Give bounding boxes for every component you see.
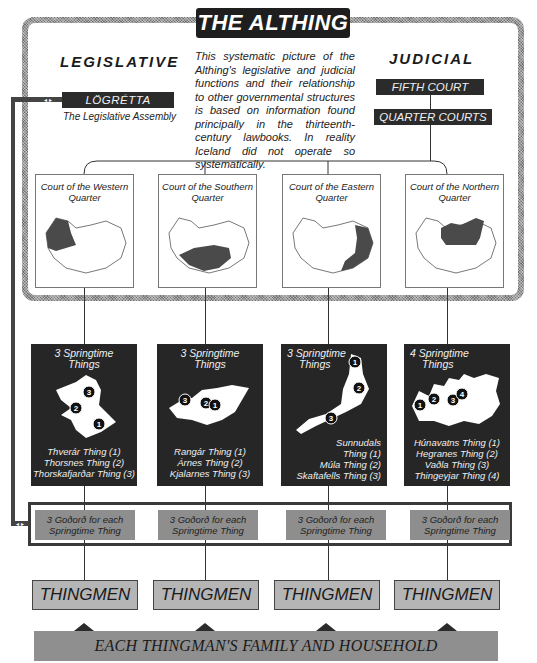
logretta-label: LÖGRÉTTA — [85, 94, 150, 106]
arrow-up-icon — [195, 623, 215, 631]
connector-west-3 — [84, 540, 85, 580]
godord-box-north: 3 Goðorð for each Springtime Thing — [410, 510, 510, 540]
thing-name: Thverár Thing (1) — [31, 446, 137, 457]
svg-text:3: 3 — [451, 396, 456, 405]
connector-south-3 — [205, 540, 206, 580]
thing-name: Thingeyjar Thing (4) — [404, 470, 510, 481]
thing-name: Vaðla Thing (3) — [404, 459, 510, 470]
court-title: Court of the Southern Quarter — [159, 181, 256, 203]
judicial-heading: JUDICIAL — [389, 50, 474, 67]
thing-name: Skaftafells Thing (3) — [297, 470, 381, 481]
arrow-up-icon — [316, 623, 336, 631]
thingmen-box-west: THINGMEN — [32, 580, 138, 610]
svg-text:3: 3 — [329, 414, 334, 423]
godord-label: 3 Goðorð for each — [35, 514, 135, 525]
springtime-card-south: 3 Springtime Things 3 2 1 Rangár Thing (… — [157, 344, 263, 486]
svg-text:3: 3 — [87, 388, 92, 397]
arrow-up-icon — [437, 623, 457, 631]
svg-text:3: 3 — [183, 396, 188, 405]
logretta-caption: The Legislative Assembly — [62, 111, 177, 122]
thingmen-box-south: THINGMEN — [153, 580, 259, 610]
springtime-title: Things — [157, 359, 263, 370]
thing-name: Thorsnes Thing (2) — [31, 457, 137, 468]
godord-label: Springtime Thing — [286, 525, 386, 536]
fifth-court-label: FIFTH COURT — [392, 81, 468, 93]
court-title: Court of the Northern Quarter — [406, 181, 503, 203]
springtime-card-east: 3 Springtime Things 1 2 3 Sunnudals Thin… — [281, 344, 387, 486]
court-card-western: Court of the Western Quarter — [35, 174, 134, 288]
page-title: THE ALTHING — [196, 8, 350, 38]
quarter-courts-label: QUARTER COURTS — [379, 111, 487, 123]
arrow-up-icon — [74, 623, 94, 631]
iceland-map-south-icon — [159, 203, 256, 278]
springtime-card-north: 4 Springtime Things 1 2 3 4 Húnavatns Th… — [404, 344, 510, 486]
thingmen-box-north: THINGMEN — [394, 580, 500, 610]
springtime-title: Things — [31, 359, 137, 370]
svg-text:1: 1 — [353, 358, 358, 367]
connector-arrows-icon: ◂ ▸ — [44, 96, 52, 103]
court-title: Court of the Western Quarter — [36, 181, 133, 203]
godord-box-east: 3 Goðorð for each Springtime Thing — [286, 510, 386, 540]
connector-east — [328, 288, 329, 344]
connector-east-3 — [328, 540, 329, 580]
thing-name: Thing (1) — [297, 448, 381, 459]
quarter-courts-box: QUARTER COURTS — [374, 109, 492, 125]
thing-name: Sunnudals — [297, 437, 381, 448]
godord-label: Springtime Thing — [35, 525, 135, 536]
iceland-map-west-icon — [36, 203, 133, 278]
court-card-southern: Court of the Southern Quarter — [158, 174, 257, 288]
connector-west — [84, 288, 85, 344]
springtime-card-west: 3 Springtime Things 3 2 1 Thverár Thing … — [31, 344, 137, 486]
north-quarter-map-icon: 1 2 3 4 — [404, 366, 510, 434]
godord-label: 3 Goðorð for each — [158, 514, 258, 525]
fifth-court-box: FIFTH COURT — [376, 79, 484, 95]
thing-name: Húnavatns Thing (1) — [404, 437, 510, 448]
thing-name: Kjalarnes Thing (3) — [157, 468, 263, 479]
svg-text:1: 1 — [97, 420, 102, 429]
family-household-bar: EACH THINGMAN'S FAMILY AND HOUSEHOLD — [34, 631, 498, 661]
connector-north-3 — [447, 540, 448, 580]
fifth-to-quarter-line — [430, 95, 431, 109]
svg-text:2: 2 — [204, 399, 209, 408]
godord-label: Springtime Thing — [158, 525, 258, 536]
connector-south — [205, 288, 206, 344]
godord-box-west: 3 Goðorð for each Springtime Thing — [35, 510, 135, 540]
thing-name: Múla Thing (2) — [297, 459, 381, 470]
logretta-box: LÖGRÉTTA — [62, 92, 174, 108]
godord-label: Springtime Thing — [410, 525, 510, 536]
godord-box-south: 3 Goðorð for each Springtime Thing — [158, 510, 258, 540]
svg-text:2: 2 — [74, 404, 79, 413]
thing-name: Hegranes Thing (2) — [404, 448, 510, 459]
thing-name: Árnes Thing (2) — [157, 457, 263, 468]
court-card-northern: Court of the Northern Quarter — [405, 174, 504, 288]
godord-label: 3 Goðorð for each — [286, 514, 386, 525]
connector-north — [447, 288, 448, 344]
svg-text:1: 1 — [418, 401, 423, 410]
thingmen-box-east: THINGMEN — [274, 580, 380, 610]
iceland-map-north-icon — [406, 203, 503, 278]
legislative-heading: LEGISLATIVE — [60, 53, 179, 70]
godord-label: 3 Goðorð for each — [410, 514, 510, 525]
court-title: Court of the Eastern Quarter — [283, 181, 380, 203]
iceland-map-east-icon — [283, 203, 380, 278]
legislative-connector-top — [11, 97, 62, 102]
svg-text:2: 2 — [357, 384, 362, 393]
west-quarter-map-icon: 3 2 1 — [31, 370, 137, 442]
east-quarter-map-icon: 1 2 3 — [281, 344, 387, 444]
thing-name: Rangár Thing (1) — [157, 446, 263, 457]
svg-text:2: 2 — [432, 395, 437, 404]
thing-name: Thorskafjarðar Thing (3) — [31, 468, 137, 479]
court-card-eastern: Court of the Eastern Quarter — [282, 174, 381, 288]
connector-arrows-icon: ◂ ▸ — [16, 520, 24, 527]
legislative-connector-line — [11, 99, 15, 525]
svg-text:1: 1 — [213, 401, 218, 410]
svg-text:4: 4 — [460, 390, 465, 399]
south-quarter-map-icon: 3 2 1 — [157, 370, 263, 442]
